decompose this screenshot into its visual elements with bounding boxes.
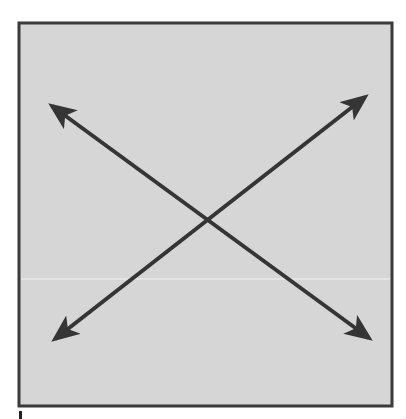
diagram-panel: [19, 23, 392, 406]
crossed-arrows-diagram: [0, 0, 406, 419]
footer-mark: [19, 411, 22, 419]
